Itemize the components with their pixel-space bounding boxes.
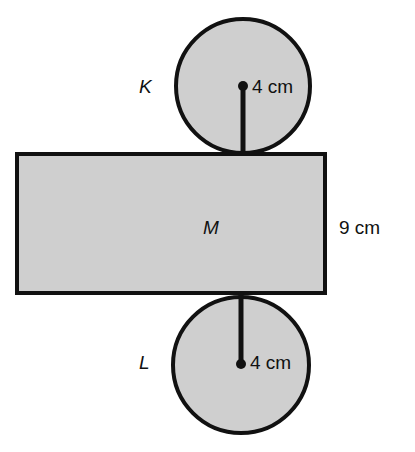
label-k: K [139, 76, 153, 97]
radius-label-l: 4 cm [250, 352, 291, 373]
label-m: M [203, 217, 219, 238]
cylinder-net-diagram: K 4 cm M 9 cm L 4 cm [0, 0, 415, 452]
height-label-m: 9 cm [339, 217, 380, 238]
radius-label-k: 4 cm [252, 76, 293, 97]
rectangle-m [17, 154, 325, 293]
center-dot-k [238, 81, 248, 91]
label-l: L [139, 352, 150, 373]
center-dot-l [236, 359, 246, 369]
